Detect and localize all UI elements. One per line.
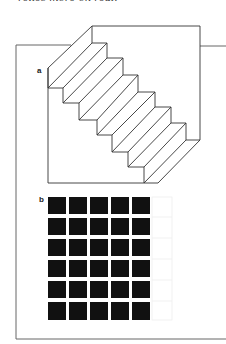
grid-square [90,218,108,235]
grid-square [111,239,129,256]
panel-label-a: a [37,66,41,75]
grid-square [48,281,66,298]
panel-label-b: b [39,195,44,204]
grid-square [90,302,108,320]
hermann-grid [48,197,150,320]
grid-square [132,218,150,235]
grid-square [132,260,150,277]
grid-square [132,302,150,320]
figure-canvas [0,0,226,344]
grid-square [48,239,66,256]
grid-square [48,218,66,235]
grid-square [48,197,66,214]
grid-square [90,281,108,298]
grid-square [132,197,150,214]
grid-square [69,239,87,256]
grid-square [111,302,129,320]
grid-square [69,260,87,277]
grid-square [111,281,129,298]
ghost-bleedthrough [152,197,172,320]
grid-square [90,197,108,214]
grid-square [132,239,150,256]
grid-square [111,260,129,277]
grid-square [111,197,129,214]
grid-square [69,218,87,235]
grid-square [69,302,87,320]
grid-square [69,281,87,298]
grid-square [90,260,108,277]
grid-square [132,281,150,298]
grid-square [111,218,129,235]
staircase-figure [48,26,200,183]
grid-square [48,302,66,320]
grid-square [90,239,108,256]
grid-square [48,260,66,277]
grid-square [69,197,87,214]
